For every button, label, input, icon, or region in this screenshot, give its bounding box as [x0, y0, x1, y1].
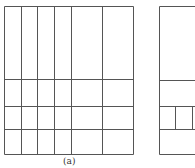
figure-caption: (a) — [63, 156, 75, 166]
grid-diagram — [0, 0, 195, 168]
